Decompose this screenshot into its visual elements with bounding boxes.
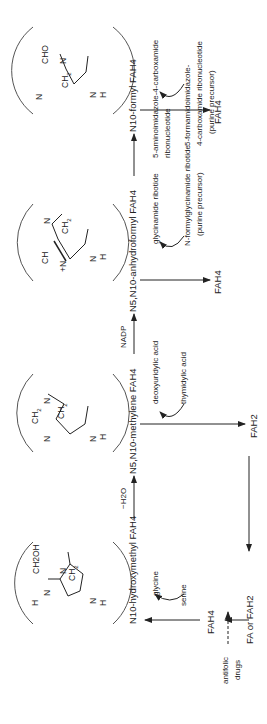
glycinamide-ribotide-label: glycinamide ribotide bbox=[150, 173, 161, 244]
minus-water-label: −H2O bbox=[118, 488, 129, 509]
chem-label: N bbox=[42, 590, 52, 596]
compound-methylene-fah4: N5,N10-methylene FAH4 bbox=[127, 368, 138, 474]
chem-label: N bbox=[42, 436, 52, 442]
glycine-label: glycine bbox=[150, 571, 161, 596]
chem-label: CHO bbox=[40, 45, 50, 64]
chem-label: H bbox=[30, 600, 40, 606]
chem-label: N bbox=[88, 598, 98, 604]
chem-label: CH2 bbox=[60, 218, 72, 234]
folate-pathway-diagram: CH2OH N CH2 H N N H CH2 N CH2 N N H CH N… bbox=[0, 0, 267, 724]
chem-label: N bbox=[88, 256, 98, 262]
formylglycinamide-ribotide-label: N-formylglycinamide ribotide bbox=[182, 145, 193, 246]
chem-label: CH2 bbox=[30, 408, 42, 424]
aicar-label-line1: 5-aminoimidazole-4-carboxamide bbox=[150, 40, 161, 158]
product-fah4-anhydro: FAH4 bbox=[212, 270, 223, 294]
nadp-label: NADP bbox=[118, 326, 129, 348]
chem-label: CH2 bbox=[56, 403, 68, 419]
chem-label: CH2 bbox=[67, 565, 79, 581]
chem-label: H bbox=[98, 254, 108, 260]
product-fah2: FAH2 bbox=[248, 414, 259, 438]
chem-label: N bbox=[34, 94, 44, 100]
chem-label: N bbox=[88, 436, 98, 442]
faicar-label-line1: 5-formamidoimidazole- bbox=[182, 65, 193, 146]
purine-precursor-note: (purine precursor) bbox=[194, 172, 205, 236]
chem-label: H bbox=[98, 92, 108, 98]
thymidylic-acid-label: thymidylic acid bbox=[178, 352, 189, 404]
antifolic-drugs-line2: drugs bbox=[232, 660, 243, 680]
entry-fah4: FAH4 bbox=[205, 610, 216, 634]
chem-label: CH2 bbox=[60, 72, 72, 88]
serine-label: serine bbox=[178, 584, 189, 606]
chem-label: +N bbox=[58, 261, 68, 272]
compound-anhydroformyl-fah4: N5,N10-anhydroformyl FAH4 bbox=[127, 190, 138, 312]
chem-label: N bbox=[88, 92, 98, 98]
product-fah4-formyl: FAH4 bbox=[212, 100, 223, 124]
chem-label: H bbox=[98, 600, 108, 606]
chem-label: N bbox=[58, 58, 68, 64]
chem-label: N bbox=[42, 218, 52, 224]
aicar-label-line2: ribonucleotide bbox=[162, 108, 173, 158]
antifolic-drugs-line1: antifolic bbox=[220, 657, 231, 684]
entry-fa-or-fah2: FA or FAH2 bbox=[244, 595, 255, 644]
chem-label: H bbox=[98, 434, 108, 440]
deoxyuridylic-acid-label: deoxyuridylic acid bbox=[150, 341, 161, 404]
chem-label: CH2OH bbox=[31, 544, 41, 574]
compound-hydroxymethyl-fah4: N10-hydroxymethyl FAH4 bbox=[127, 516, 138, 624]
compound-formyl-fah4: N10-formyl FAH4 bbox=[127, 59, 138, 132]
faicar-label-line2: 4-carboxamide ribonucleotide bbox=[194, 41, 205, 146]
chem-label: CH bbox=[40, 252, 50, 264]
chem-label: N bbox=[42, 398, 52, 404]
